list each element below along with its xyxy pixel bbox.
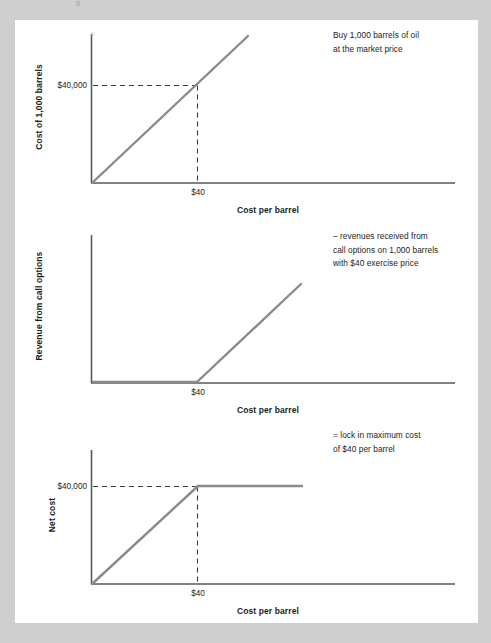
chart-1-y-axis-label: Cost of 1,000 barrels (34, 55, 44, 160)
scan-artifact-page (91, 32, 94, 36)
chart-panel-1: Cost of 1,000 barrels $40,000 $40 Cost p… (15, 20, 478, 221)
chart-2-x-axis-label: Cost per barrel (237, 405, 299, 415)
figure-page: Cost of 1,000 barrels $40,000 $40 Cost p… (15, 20, 478, 623)
chart-panel-2: Revenue from call options $40 Cost per b… (15, 221, 478, 422)
scan-artifact-top (76, 1, 80, 6)
chart-3-y-axis-label: Net cost (47, 484, 57, 546)
chart-1-data-line (92, 36, 248, 183)
chart-panel-3: Net cost $40,000 $40 Cost per barrel = l… (15, 420, 478, 621)
chart-3-data-line-rising (92, 486, 198, 584)
chart-3-y-tick-40000: $40,000 (29, 482, 87, 491)
chart-2-y-axis-label: Revenue from call options (34, 251, 44, 361)
chart-1-x-tick-40: $40 (178, 188, 218, 197)
chart-2-annotation: – revenues received from call options on… (333, 230, 478, 271)
chart-3-x-axis-label: Cost per barrel (237, 606, 299, 616)
chart-3-annotation: = lock in maximum cost of $40 per barrel (333, 429, 478, 456)
chart-2-data-line-rising (197, 284, 301, 382)
chart-1-y-tick-40000: $40,000 (29, 81, 87, 90)
chart-1-annotation: Buy 1,000 barrels of oil at the market p… (333, 29, 478, 56)
chart-3-x-tick-40: $40 (178, 589, 218, 598)
chart-2-x-tick-40: $40 (178, 388, 218, 397)
chart-1-x-axis-label: Cost per barrel (237, 205, 299, 215)
